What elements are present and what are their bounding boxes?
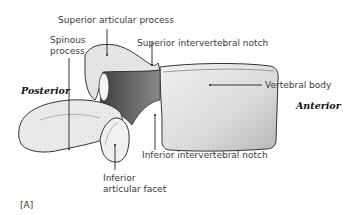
label-spinous-process-line2: process (50, 46, 85, 57)
figure-tag: [A] (20, 200, 33, 210)
label-spinous-process-line1: Spinous (50, 35, 86, 46)
label-posterior: Posterior (21, 85, 70, 96)
label-inferior-articular-facet-line1: Inferior (103, 173, 135, 184)
label-inferior-articular-facet-line2: articular facet (103, 184, 166, 195)
label-superior-intervertebral-notch: Superior intervertebral notch (137, 38, 268, 49)
label-inferior-intervertebral-notch: Inferior intervertebral notch (142, 150, 268, 161)
vertebral-body-shape (160, 63, 278, 151)
label-anterior: Anterior (296, 100, 341, 111)
label-superior-articular-process: Superior articular process (58, 15, 174, 26)
label-vertebral-body: Vertebral body (265, 80, 331, 91)
